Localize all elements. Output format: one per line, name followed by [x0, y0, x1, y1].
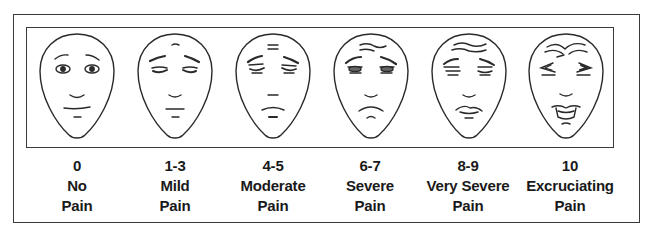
pain-word: Pain — [510, 196, 630, 216]
pain-level-label-10: 10 Excruciating Pain — [510, 156, 630, 216]
very-severe-pain-face-icon — [428, 31, 510, 143]
mild-pain-face-icon — [134, 31, 216, 143]
pain-score: 10 — [510, 156, 630, 176]
no-pain-face-icon — [36, 31, 118, 143]
pain-descriptor: Excruciating — [510, 176, 630, 196]
severe-pain-face-icon — [330, 31, 412, 143]
moderate-pain-face-icon — [232, 31, 314, 143]
excruciating-pain-face-icon — [525, 31, 607, 143]
